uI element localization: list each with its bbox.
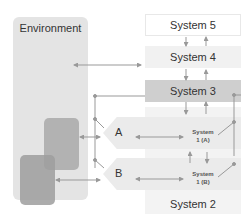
connector-lines	[0, 0, 246, 224]
